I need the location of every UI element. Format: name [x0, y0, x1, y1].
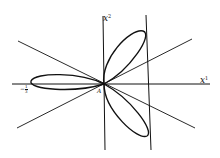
- tick-label-minus-one-third: −13: [20, 85, 28, 94]
- petal-lower-right: [104, 84, 149, 137]
- origin-label: A: [97, 88, 101, 94]
- petal-upper-right: [104, 31, 146, 84]
- x-axis-label: x1: [200, 76, 208, 85]
- petal-left: [31, 75, 104, 90]
- y-axis-label: x2: [103, 14, 111, 23]
- diagram-canvas: [0, 0, 220, 158]
